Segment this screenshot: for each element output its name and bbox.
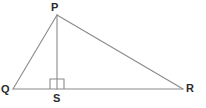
vertex-label-p: P — [51, 2, 58, 13]
vertex-label-q: Q — [1, 84, 10, 95]
triangle-outline — [13, 15, 183, 89]
geometry-figure: P Q R S — [0, 0, 206, 108]
vertex-label-r: R — [186, 83, 194, 94]
triangle-diagram-svg — [0, 0, 206, 108]
segment-pr — [57, 15, 183, 89]
segment-qp — [13, 15, 57, 89]
vertex-label-s: S — [53, 93, 60, 104]
